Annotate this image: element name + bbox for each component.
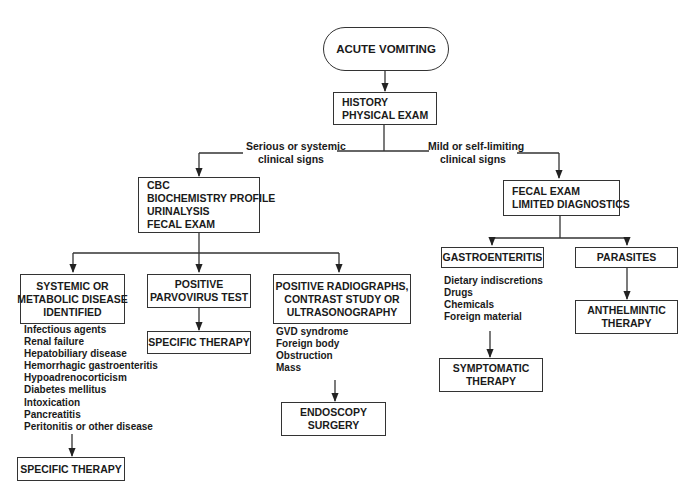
edge-label-mild: Mild or self-limiting clinical signs (428, 140, 518, 166)
node-lab-tests: CBC BIOCHEMISTRY PROFILE URINALYSIS FECA… (138, 177, 260, 233)
list-systemic-causes: Infectious agents Renal failure Hepatobi… (24, 324, 158, 433)
list-item: Hemorrhagic gastroenteritis (24, 360, 158, 372)
list-item: Pancreatitis (24, 409, 158, 421)
edge-label-serious: Serious or systemic clinical signs (246, 140, 336, 166)
node-text: URINALYSIS (147, 205, 210, 218)
node-gastroenteritis: GASTROENTERITIS (441, 247, 544, 268)
list-gastro-causes: Dietary indiscretions Drugs Chemicals Fo… (444, 275, 543, 323)
node-text: METABOLIC DISEASE (17, 293, 128, 306)
node-text: CONTRAST STUDY OR (284, 293, 399, 306)
edge-label-line: clinical signs (246, 153, 336, 166)
list-item: Infectious agents (24, 324, 158, 336)
node-text: SYSTEMIC OR (36, 280, 108, 293)
edge-label-line: Serious or systemic (246, 140, 336, 153)
node-endoscopy-surgery: ENDOSCOPY SURGERY (281, 402, 386, 436)
node-text: POSITIVE RADIOGRAPHS, (275, 280, 408, 293)
node-text: THERAPY (601, 317, 651, 330)
list-item: Drugs (444, 287, 543, 299)
list-item: Mass (276, 362, 348, 374)
node-positive-parvovirus-test: POSITIVE PARVOVIRUS TEST (147, 274, 251, 308)
node-positive-radiographs: POSITIVE RADIOGRAPHS, CONTRAST STUDY OR … (273, 274, 411, 324)
node-text: GASTROENTERITIS (443, 251, 543, 264)
node-text: CBC (147, 179, 170, 192)
node-text: FECAL EXAM (512, 185, 580, 198)
edge-label-line: clinical signs (428, 153, 518, 166)
list-item: Foreign body (276, 338, 348, 350)
node-text: ACUTE VOMITING (336, 43, 436, 56)
node-specific-therapy-systemic: SPECIFIC THERAPY (17, 457, 125, 481)
node-systemic-metabolic-disease: SYSTEMIC OR METABOLIC DISEASE IDENTIFIED (20, 274, 125, 324)
start-node-acute-vomiting: ACUTE VOMITING (323, 27, 449, 71)
list-item: Renal failure (24, 336, 158, 348)
list-item: Foreign material (444, 311, 543, 323)
list-item: Hepatobiliary disease (24, 348, 158, 360)
list-item: Hypoadrenocorticism (24, 372, 158, 384)
node-text: SPECIFIC THERAPY (20, 463, 122, 476)
node-specific-therapy-parvo: SPECIFIC THERAPY (147, 331, 251, 354)
node-text: SYMPTOMATIC (453, 362, 530, 375)
edge-label-line: Mild or self-limiting (428, 140, 518, 153)
list-item: Peritonitis or other disease (24, 421, 158, 433)
node-parasites: PARASITES (575, 247, 678, 268)
node-text: LIMITED DIAGNOSTICS (512, 198, 630, 211)
node-text: HISTORY (342, 96, 388, 109)
flowchart-canvas: ACUTE VOMITING HISTORY PHYSICAL EXAM Ser… (0, 0, 697, 488)
node-text: BIOCHEMISTRY PROFILE (147, 192, 275, 205)
node-text: SURGERY (308, 419, 360, 432)
node-text: SPECIFIC THERAPY (148, 336, 250, 349)
node-text: ANTHELMINTIC (587, 304, 666, 317)
node-text: IDENTIFIED (43, 306, 101, 319)
list-radiograph-findings: GVD syndrome Foreign body Obstruction Ma… (276, 326, 348, 374)
node-text: PARASITES (597, 251, 656, 264)
node-text: PHYSICAL EXAM (342, 109, 428, 122)
list-item: GVD syndrome (276, 326, 348, 338)
node-text: PARVOVIRUS TEST (150, 291, 248, 304)
list-item: Chemicals (444, 299, 543, 311)
node-text: THERAPY (466, 375, 516, 388)
list-item: Diabetes mellitus (24, 384, 158, 396)
node-text: ENDOSCOPY (300, 406, 367, 419)
list-item: Dietary indiscretions (444, 275, 543, 287)
node-text: ULTRASONOGRAPHY (287, 306, 398, 319)
list-item: Intoxication (24, 397, 158, 409)
node-text: FECAL EXAM (147, 218, 215, 231)
node-history-physical-exam: HISTORY PHYSICAL EXAM (333, 92, 437, 125)
node-text: POSITIVE (175, 278, 223, 291)
node-fecal-exam-limited-diagnostics: FECAL EXAM LIMITED DIAGNOSTICS (503, 180, 620, 216)
list-item: Obstruction (276, 350, 348, 362)
node-anthelmintic-therapy: ANTHELMINTIC THERAPY (575, 300, 678, 334)
node-symptomatic-therapy: SYMPTOMATIC THERAPY (439, 358, 543, 392)
